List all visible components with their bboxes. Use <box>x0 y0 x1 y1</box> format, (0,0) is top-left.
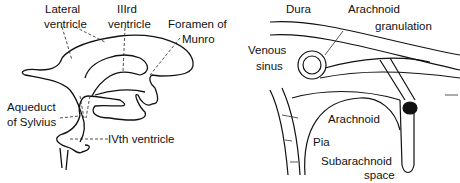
label-aqueduct-of-sylvius: Aqueduct <box>7 101 56 113</box>
label-third-ventricle: ventricle <box>108 18 151 30</box>
label-arachnoid: Arachnoid <box>328 113 380 125</box>
label-foramen-of-munro: Foramen of <box>168 18 227 30</box>
label-dura: Dura <box>286 3 311 15</box>
label-fourth-ventricle: IVth ventricle <box>108 133 174 145</box>
label-lateral-ventricle: Lateral <box>45 3 80 15</box>
label-subarachnoid-space: Subarachnoid <box>321 155 392 167</box>
label-arachnoid-granulation: Arachnoid <box>348 3 400 15</box>
label-aqueduct-of-sylvius: of Sylvius <box>7 116 56 128</box>
label-lateral-ventricle: ventricle <box>44 18 87 30</box>
label-venous-sinus: Venous <box>248 44 286 56</box>
label-pia: Pia <box>313 136 330 148</box>
label-arachnoid-granulation: granulation <box>375 20 432 32</box>
label-venous-sinus: sinus <box>256 60 283 72</box>
ventricular-system-diagram: Lateral ventricle IIIrd ventricle Forame… <box>0 0 230 183</box>
meninges-diagram: Dura Arachnoid granulation Venous sinus … <box>230 0 460 183</box>
label-subarachnoid-space: space <box>364 169 395 181</box>
label-foramen-of-munro: Munro <box>182 33 215 45</box>
label-third-ventricle: IIIrd <box>117 3 137 15</box>
